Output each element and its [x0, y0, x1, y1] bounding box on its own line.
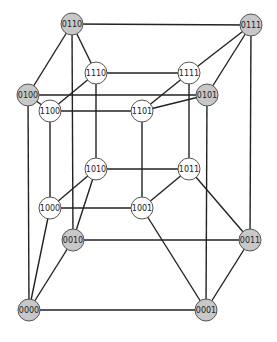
- node-1101: 1101: [131, 100, 153, 122]
- node-0111: 0111: [240, 14, 262, 36]
- node-1110: 1110: [85, 62, 107, 84]
- node-label: 0000: [19, 306, 39, 315]
- node-0011: 0011: [239, 229, 261, 251]
- node-label: 1001: [132, 204, 152, 213]
- edge-0111-1111: [189, 25, 251, 73]
- node-label: 1010: [86, 165, 106, 174]
- node-1000: 1000: [39, 197, 61, 219]
- node-label: 1111: [179, 69, 199, 78]
- node-label: 0110: [62, 20, 82, 29]
- node-label: 1110: [86, 69, 106, 78]
- node-1010: 1010: [85, 158, 107, 180]
- node-label: 0100: [18, 91, 38, 100]
- node-label: 1100: [40, 107, 60, 116]
- node-0101: 0101: [196, 84, 218, 106]
- node-0000: 0000: [18, 299, 40, 321]
- node-1001: 1001: [131, 197, 153, 219]
- node-1011: 1011: [178, 158, 200, 180]
- node-label: 1101: [132, 107, 152, 116]
- node-label: 0010: [63, 236, 83, 245]
- node-0001: 0001: [195, 299, 217, 321]
- node-label: 0111: [241, 21, 261, 30]
- node-0010: 0010: [62, 229, 84, 251]
- hypercube-diagram: 0110011111101111010001011100110110101011…: [0, 0, 277, 342]
- edge-0001-1001: [142, 208, 206, 310]
- node-0100: 0100: [17, 84, 39, 106]
- node-label: 0101: [197, 91, 217, 100]
- node-label: 0011: [240, 236, 260, 245]
- edge-0001-0011: [206, 240, 250, 310]
- edge-0001-0101: [206, 95, 207, 310]
- edge-0100-0110: [28, 24, 72, 95]
- edges-layer: [28, 24, 251, 310]
- edge-0101-0111: [207, 25, 251, 95]
- edge-0011-1011: [189, 169, 250, 240]
- edge-0000-0100: [28, 95, 29, 310]
- node-label: 0001: [196, 306, 216, 315]
- edge-0000-1000: [29, 208, 50, 310]
- node-1100: 1100: [39, 100, 61, 122]
- edge-0011-0111: [250, 25, 251, 240]
- node-1111: 1111: [178, 62, 200, 84]
- node-0110: 0110: [61, 13, 83, 35]
- node-label: 1011: [179, 165, 199, 174]
- nodes-layer: 0110011111101111010001011100110110101011…: [17, 13, 262, 321]
- node-label: 1000: [40, 204, 60, 213]
- edge-0110-0111: [72, 24, 251, 25]
